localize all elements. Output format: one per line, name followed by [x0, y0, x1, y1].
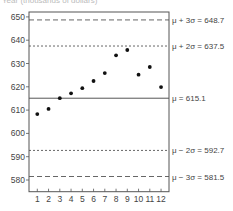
data-point [47, 107, 51, 111]
x-tick-label: 7 [102, 194, 107, 204]
data-point [103, 71, 107, 75]
data-point [35, 112, 39, 116]
y-tick-label: 600 [11, 128, 25, 138]
y-tick-label: 590 [11, 152, 25, 162]
y-tick-label: 620 [11, 82, 25, 92]
y-tick-label: 630 [11, 59, 25, 69]
reference-label-mu-minus-2sigma: μ − 2σ = 592.7 [172, 146, 225, 155]
reference-label-mu-minus-3sigma: μ − 3σ = 581.5 [172, 173, 225, 182]
x-tick-label: 4 [69, 194, 74, 204]
data-point [137, 73, 141, 77]
x-tick-label: 5 [80, 194, 85, 204]
reference-label-mu-plus-3sigma: μ + 3σ = 648.7 [172, 16, 225, 25]
data-point [58, 96, 62, 100]
x-tick-label: 3 [57, 194, 62, 204]
control-chart: 580590600610620630640650123456789101112μ… [0, 0, 233, 211]
x-tick-label: 12 [156, 194, 166, 204]
x-tick-label: 6 [91, 194, 96, 204]
x-tick-label: 2 [46, 194, 51, 204]
data-point [92, 79, 96, 83]
y-tick-label: 610 [11, 105, 25, 115]
data-point [159, 85, 163, 89]
plot-frame [29, 12, 169, 192]
x-tick-label: 1 [35, 194, 40, 204]
data-point [125, 48, 129, 52]
data-point [69, 91, 73, 95]
y-tick-label: 640 [11, 35, 25, 45]
x-tick-label: 11 [145, 194, 154, 204]
data-point [114, 53, 118, 57]
reference-label-mu-plus-2sigma: μ + 2σ = 637.5 [172, 42, 225, 51]
x-tick-label: 9 [125, 194, 130, 204]
y-tick-label: 650 [11, 12, 25, 22]
y-tick-label: 580 [11, 175, 25, 185]
data-point [148, 65, 152, 69]
reference-label-mu: μ = 615.1 [172, 94, 206, 103]
x-tick-label: 8 [114, 194, 119, 204]
x-tick-label: 10 [134, 194, 144, 204]
data-point [80, 86, 84, 90]
